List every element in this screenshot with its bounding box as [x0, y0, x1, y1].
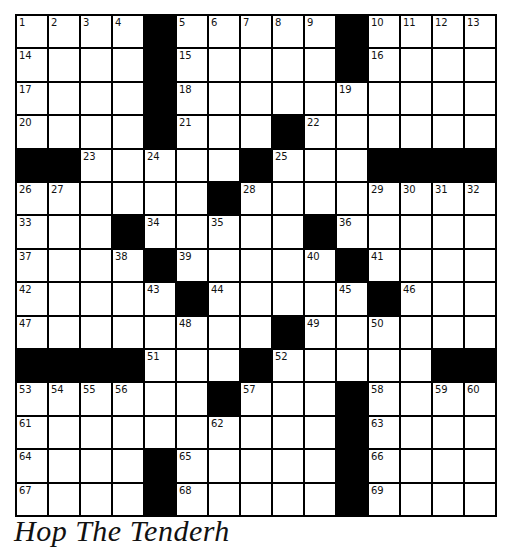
grid-cell[interactable] — [177, 383, 207, 414]
grid-cell[interactable]: 51 — [145, 350, 175, 381]
grid-cell[interactable]: 5 — [177, 16, 207, 47]
grid-cell[interactable]: 3 — [81, 16, 111, 47]
grid-cell[interactable] — [433, 484, 463, 515]
grid-cell[interactable]: 10 — [369, 16, 399, 47]
grid-cell[interactable] — [305, 49, 335, 80]
grid-cell[interactable] — [433, 450, 463, 481]
grid-cell[interactable]: 28 — [241, 183, 271, 214]
grid-cell[interactable] — [433, 116, 463, 147]
grid-cell[interactable]: 25 — [273, 150, 303, 181]
grid-cell[interactable] — [241, 484, 271, 515]
grid-cell[interactable]: 19 — [337, 83, 367, 114]
grid-cell[interactable]: 40 — [305, 250, 335, 281]
grid-cell[interactable] — [81, 283, 111, 314]
grid-cell[interactable] — [433, 216, 463, 247]
grid-cell[interactable] — [177, 417, 207, 448]
grid-cell[interactable]: 44 — [209, 283, 239, 314]
grid-cell[interactable]: 26 — [17, 183, 47, 214]
grid-cell[interactable] — [49, 283, 79, 314]
grid-cell[interactable] — [337, 183, 367, 214]
grid-cell[interactable] — [305, 484, 335, 515]
grid-cell[interactable] — [433, 317, 463, 348]
grid-cell[interactable] — [465, 417, 495, 448]
grid-cell[interactable] — [401, 417, 431, 448]
grid-cell[interactable] — [81, 484, 111, 515]
grid-cell[interactable]: 23 — [81, 150, 111, 181]
grid-cell[interactable] — [401, 383, 431, 414]
grid-cell[interactable]: 1 — [17, 16, 47, 47]
grid-cell[interactable]: 20 — [17, 116, 47, 147]
grid-cell[interactable] — [401, 216, 431, 247]
grid-cell[interactable] — [113, 116, 143, 147]
grid-cell[interactable] — [177, 350, 207, 381]
grid-cell[interactable]: 34 — [145, 216, 175, 247]
grid-cell[interactable]: 56 — [113, 383, 143, 414]
grid-cell[interactable] — [305, 350, 335, 381]
grid-cell[interactable] — [241, 317, 271, 348]
grid-cell[interactable] — [305, 283, 335, 314]
grid-cell[interactable]: 66 — [369, 450, 399, 481]
grid-cell[interactable]: 68 — [177, 484, 207, 515]
grid-cell[interactable]: 16 — [369, 49, 399, 80]
grid-cell[interactable] — [241, 49, 271, 80]
grid-cell[interactable] — [369, 116, 399, 147]
grid-cell[interactable] — [273, 250, 303, 281]
grid-cell[interactable]: 60 — [465, 383, 495, 414]
grid-cell[interactable] — [241, 116, 271, 147]
grid-cell[interactable]: 46 — [401, 283, 431, 314]
grid-cell[interactable] — [49, 484, 79, 515]
grid-cell[interactable] — [401, 484, 431, 515]
grid-cell[interactable] — [273, 49, 303, 80]
grid-cell[interactable] — [49, 317, 79, 348]
grid-cell[interactable]: 67 — [17, 484, 47, 515]
grid-cell[interactable]: 54 — [49, 383, 79, 414]
grid-cell[interactable] — [81, 216, 111, 247]
grid-cell[interactable]: 24 — [145, 150, 175, 181]
grid-cell[interactable] — [401, 116, 431, 147]
grid-cell[interactable] — [49, 49, 79, 80]
grid-cell[interactable] — [369, 83, 399, 114]
grid-cell[interactable] — [273, 417, 303, 448]
grid-cell[interactable]: 12 — [433, 16, 463, 47]
grid-cell[interactable]: 32 — [465, 183, 495, 214]
grid-cell[interactable]: 33 — [17, 216, 47, 247]
grid-cell[interactable] — [273, 183, 303, 214]
grid-cell[interactable] — [113, 484, 143, 515]
grid-cell[interactable] — [113, 183, 143, 214]
grid-cell[interactable]: 64 — [17, 450, 47, 481]
grid-cell[interactable] — [209, 450, 239, 481]
grid-cell[interactable] — [113, 150, 143, 181]
grid-cell[interactable]: 30 — [401, 183, 431, 214]
grid-cell[interactable] — [113, 417, 143, 448]
grid-cell[interactable] — [49, 83, 79, 114]
grid-cell[interactable]: 53 — [17, 383, 47, 414]
grid-cell[interactable] — [433, 250, 463, 281]
grid-cell[interactable] — [465, 216, 495, 247]
grid-cell[interactable]: 58 — [369, 383, 399, 414]
grid-cell[interactable]: 31 — [433, 183, 463, 214]
grid-cell[interactable]: 49 — [305, 317, 335, 348]
grid-cell[interactable] — [337, 350, 367, 381]
grid-cell[interactable]: 18 — [177, 83, 207, 114]
grid-cell[interactable]: 52 — [273, 350, 303, 381]
grid-cell[interactable] — [241, 417, 271, 448]
grid-cell[interactable]: 69 — [369, 484, 399, 515]
grid-cell[interactable] — [241, 250, 271, 281]
grid-cell[interactable]: 27 — [49, 183, 79, 214]
grid-cell[interactable] — [145, 317, 175, 348]
grid-cell[interactable] — [145, 417, 175, 448]
grid-cell[interactable]: 7 — [241, 16, 271, 47]
grid-cell[interactable] — [81, 83, 111, 114]
grid-cell[interactable] — [465, 317, 495, 348]
grid-cell[interactable]: 61 — [17, 417, 47, 448]
grid-cell[interactable]: 13 — [465, 16, 495, 47]
grid-cell[interactable] — [465, 250, 495, 281]
grid-cell[interactable] — [465, 450, 495, 481]
grid-cell[interactable] — [305, 383, 335, 414]
grid-cell[interactable] — [465, 116, 495, 147]
grid-cell[interactable] — [49, 250, 79, 281]
grid-cell[interactable] — [177, 183, 207, 214]
grid-cell[interactable] — [241, 283, 271, 314]
grid-cell[interactable] — [433, 283, 463, 314]
grid-cell[interactable]: 37 — [17, 250, 47, 281]
